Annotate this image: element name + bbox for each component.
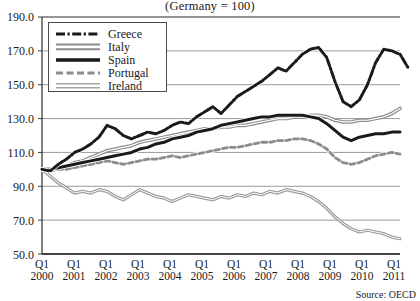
legend-swatch-italy xyxy=(55,41,101,53)
chart-figure: (Germany = 100) 190.0 170.0 150.0 130.0 … xyxy=(0,0,420,301)
legend-item-italy: Italy xyxy=(55,40,166,53)
source-note: Source: OECD xyxy=(356,289,416,300)
legend-label-greece: Greece xyxy=(108,28,142,40)
legend-item-ireland: Ireland xyxy=(55,79,166,92)
legend-swatch-spain xyxy=(55,54,101,66)
legend-label-portugal: Portugal xyxy=(108,67,149,79)
legend-swatch-greece xyxy=(55,28,101,40)
chart-legend: Greece Italy Spain Portugal Ireland xyxy=(48,22,167,92)
legend-item-portugal: Portugal xyxy=(55,66,166,79)
legend-label-spain: Spain xyxy=(108,54,135,66)
series-ireland xyxy=(42,169,400,238)
legend-item-spain: Spain xyxy=(55,53,166,66)
x-tick-2011: Q12011 xyxy=(374,258,414,282)
legend-item-greece: Greece xyxy=(55,27,166,40)
legend-label-italy: Italy xyxy=(108,41,130,53)
legend-label-ireland: Ireland xyxy=(108,80,142,92)
legend-swatch-ireland xyxy=(55,80,101,92)
legend-swatch-portugal xyxy=(55,67,101,79)
